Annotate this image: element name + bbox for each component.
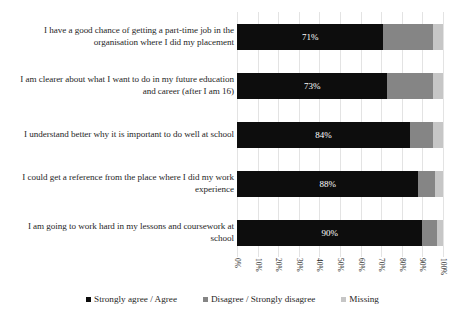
bar-segment bbox=[387, 73, 432, 99]
bar-segment bbox=[433, 24, 443, 50]
bar-row: 84% bbox=[237, 122, 443, 148]
x-axis-tick-label: 20% bbox=[272, 258, 282, 292]
x-axis-tick-label: 80% bbox=[396, 258, 406, 292]
category-label: I am clearer about what I want to do in … bbox=[6, 74, 234, 97]
chart-legend: Strongly agree / AgreeDisagree / Strongl… bbox=[0, 294, 465, 304]
x-axis-tick-label: 90% bbox=[416, 258, 426, 292]
category-label: I am going to work hard in my lessons an… bbox=[6, 221, 234, 244]
legend-swatch-icon bbox=[86, 297, 91, 302]
x-axis-tick-label: 30% bbox=[293, 258, 303, 292]
x-axis-tick-label: 70% bbox=[375, 258, 385, 292]
plot-area: 71%73%84%88%90% bbox=[237, 12, 443, 257]
category-label: I understand better why it is important … bbox=[6, 129, 234, 141]
stacked-bar-chart: I have a good chance of getting a part-t… bbox=[0, 0, 465, 323]
bar-row: 71% bbox=[237, 24, 443, 50]
legend-item[interactable]: Missing bbox=[341, 294, 379, 304]
bar-segment bbox=[433, 73, 443, 99]
bar-segment bbox=[435, 171, 443, 197]
bar-row: 90% bbox=[237, 220, 443, 246]
x-axis-tick-label: 0% bbox=[231, 258, 241, 292]
bar-row: 88% bbox=[237, 171, 443, 197]
bar-segment: 71% bbox=[237, 24, 383, 50]
bar-segment bbox=[433, 122, 443, 148]
bar-segment: 73% bbox=[237, 73, 387, 99]
bar-row: 73% bbox=[237, 73, 443, 99]
x-axis-tick-label: 100% bbox=[437, 258, 447, 292]
legend-item[interactable]: Strongly agree / Agree bbox=[86, 294, 177, 304]
x-axis-tick-label: 50% bbox=[334, 258, 344, 292]
legend-label: Strongly agree / Agree bbox=[94, 294, 177, 304]
x-axis-tick-label: 40% bbox=[313, 258, 323, 292]
bar-value-label: 73% bbox=[237, 81, 387, 90]
legend-swatch-icon bbox=[203, 297, 208, 302]
bar-segment bbox=[437, 220, 443, 246]
bar-value-label: 71% bbox=[237, 32, 383, 41]
category-label: I could get a reference from the place w… bbox=[6, 172, 234, 195]
x-axis: 0%10%20%30%40%50%60%70%80%90%100% bbox=[237, 258, 443, 292]
bar-value-label: 90% bbox=[237, 228, 422, 237]
legend-swatch-icon bbox=[341, 297, 346, 302]
category-label: I have a good chance of getting a part-t… bbox=[6, 25, 234, 48]
x-axis-tick-label: 60% bbox=[355, 258, 365, 292]
bar-segment bbox=[410, 122, 433, 148]
bar-value-label: 84% bbox=[237, 130, 410, 139]
bar-segment: 84% bbox=[237, 122, 410, 148]
bar-segment bbox=[422, 220, 436, 246]
bar-segment: 88% bbox=[237, 171, 418, 197]
bar-segment bbox=[418, 171, 434, 197]
legend-label: Missing bbox=[349, 294, 379, 304]
category-label-column: I have a good chance of getting a part-t… bbox=[0, 12, 237, 257]
bar-value-label: 88% bbox=[237, 179, 418, 188]
bar-segment: 90% bbox=[237, 220, 422, 246]
gridline bbox=[443, 12, 444, 257]
x-axis-tick-label: 10% bbox=[252, 258, 262, 292]
legend-item[interactable]: Disagree / Strongly disagree bbox=[203, 294, 315, 304]
bar-segment bbox=[383, 24, 432, 50]
legend-label: Disagree / Strongly disagree bbox=[211, 294, 315, 304]
